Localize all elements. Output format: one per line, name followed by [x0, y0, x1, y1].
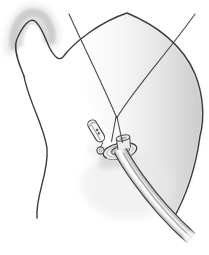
medical-illustration [0, 0, 209, 255]
suture-knot [116, 116, 119, 119]
body-shading-group [10, 9, 203, 221]
left-body-line [24, 76, 47, 218]
tube-tip-fade [180, 228, 208, 255]
tube-neck [116, 134, 131, 150]
illustration-canvas [0, 0, 209, 255]
